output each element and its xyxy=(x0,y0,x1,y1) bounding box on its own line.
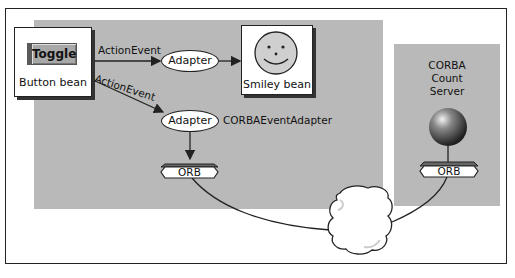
smiley-face-icon xyxy=(242,29,314,79)
server-title: CORBA Count Server xyxy=(394,59,500,98)
server-title-line-1: CORBA xyxy=(394,59,500,72)
orb-client-label: ORB xyxy=(161,166,218,178)
orb-server-label: ORB xyxy=(420,165,478,177)
adapter-bottom: Adapter xyxy=(161,110,219,132)
edge-label-action-event-top: ActionEvent xyxy=(98,44,161,56)
smiley-bean: Smiley bean xyxy=(241,25,313,95)
adapter-top: Adapter xyxy=(161,50,219,72)
button-bean: Toggle Button bean xyxy=(14,27,92,97)
corba-event-adapter-label: CORBAEventAdapter xyxy=(223,114,332,126)
toggle-button[interactable]: Toggle xyxy=(27,43,77,65)
server-title-line-2: Count xyxy=(394,72,500,85)
server-title-line-3: Server xyxy=(394,85,500,98)
button-bean-caption: Button bean xyxy=(15,76,91,89)
smiley-bean-caption: Smiley bean xyxy=(242,78,312,91)
